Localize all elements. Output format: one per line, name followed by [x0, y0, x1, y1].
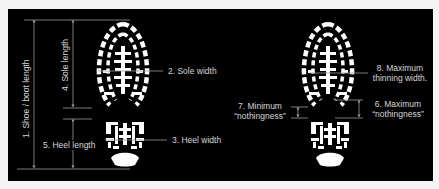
left-heel-tread [106, 122, 144, 167]
heel-width-label: 3. Heel width [172, 135, 221, 145]
left-sole-tread [99, 24, 147, 105]
right-shoe-print [304, 24, 352, 167]
shoe-length-label: 1. Shoe / boot length [21, 60, 31, 138]
max-thinning-line2: thinning width. [368, 73, 432, 83]
max-thinning-line1: 8. Maximum [368, 63, 432, 73]
max-nothingness-label: 6. Maximum “nothingness” [368, 99, 428, 119]
right-heel-tread [311, 122, 349, 167]
sole-length-label: 4. Sole length [60, 39, 70, 91]
right-sole-tread [304, 24, 352, 105]
min-nothingness-line1: 7. Minimum [232, 101, 288, 111]
max-nothingness-line1: 6. Maximum [368, 99, 428, 109]
heel-length-label: 5. Heel length [42, 140, 96, 150]
min-nothingness-line2: “nothingness” [232, 111, 288, 121]
min-nothingness-label: 7. Minimum “nothingness” [232, 101, 288, 121]
left-shoe-print [99, 24, 147, 167]
diagram-graphics [0, 0, 439, 189]
sole-width-label: 2. Sole width [168, 66, 217, 76]
max-nothingness-line2: “nothingness” [368, 109, 428, 119]
max-thinning-label: 8. Maximum thinning width. [368, 63, 432, 83]
